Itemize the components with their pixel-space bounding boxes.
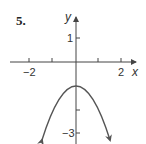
x-tick-label-neg2: −2 xyxy=(23,66,36,78)
x-tick-label-2: 2 xyxy=(118,66,124,78)
y-axis-label: y xyxy=(64,10,72,24)
y-tick-label-neg3: −3 xyxy=(62,127,75,139)
x-ticks xyxy=(29,58,121,62)
x-axis-label: x xyxy=(131,65,139,79)
parabola-graph: −2 2 x y 1 −3 xyxy=(0,0,146,144)
y-tick-label-1: 1 xyxy=(67,32,73,44)
